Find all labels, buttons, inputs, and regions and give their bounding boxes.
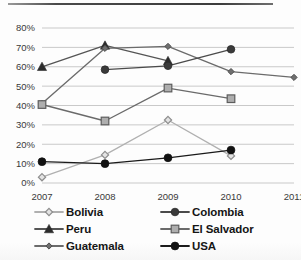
legend-item[interactable]: Bolivia — [34, 204, 124, 220]
chart-legend: Bolivia Peru Guatemala Colombia El Salva… — [0, 204, 301, 258]
data-point-colombia — [101, 66, 109, 74]
y-tick-label: 30% — [16, 119, 36, 130]
series-line-el-salvador — [42, 88, 231, 121]
legend-item[interactable]: Guatemala — [34, 238, 124, 254]
y-tick-label: 80% — [16, 22, 36, 33]
legend-label-guatemala: Guatemala — [64, 239, 124, 253]
legend-label-usa: USA — [190, 239, 216, 253]
data-point-colombia — [227, 46, 235, 54]
data-point-el-salvador — [38, 101, 46, 109]
x-tick-label: 2011 — [284, 191, 301, 202]
legend-marker-el-salvador — [160, 222, 190, 236]
data-point-usa — [227, 146, 235, 154]
data-point-usa — [38, 158, 46, 166]
legend-label-colombia: Colombia — [190, 205, 244, 219]
legend-label-bolivia: Bolivia — [64, 205, 103, 219]
legend-item[interactable]: USA — [160, 238, 254, 254]
legend-marker-colombia — [160, 205, 190, 219]
legend-swatch-marker — [171, 208, 179, 216]
legend-marker-usa — [160, 239, 190, 253]
legend-label-peru: Peru — [64, 222, 91, 236]
y-axis-tick-labels: 0%10%20%30%40%50%60%70%80% — [16, 22, 36, 188]
legend-column-left: Bolivia Peru Guatemala — [34, 204, 124, 255]
legend-swatch-marker — [46, 243, 52, 249]
data-point-usa — [101, 160, 109, 168]
legend-item[interactable]: Peru — [34, 221, 124, 237]
y-tick-label: 70% — [16, 42, 36, 53]
legend-swatch-marker — [45, 208, 52, 215]
series-line-guatemala — [42, 46, 294, 103]
data-point-usa — [164, 154, 172, 162]
legend-item[interactable]: Colombia — [160, 204, 254, 220]
y-tick-label: 40% — [16, 100, 36, 111]
data-point-el-salvador — [101, 117, 109, 125]
x-tick-label: 2008 — [94, 191, 115, 202]
x-tick-label: 2010 — [220, 191, 241, 202]
legend-swatch-marker — [171, 225, 179, 233]
line-chart-plot: 0%10%20%30%40%50%60%70%80% 2007200820092… — [0, 0, 301, 210]
y-tick-label: 60% — [16, 61, 36, 72]
series-markers-group — [37, 41, 297, 181]
y-tick-label: 20% — [16, 139, 36, 150]
y-tick-label: 0% — [21, 177, 35, 188]
legend-swatch-marker — [171, 242, 179, 250]
series-line-bolivia — [42, 120, 231, 177]
data-point-bolivia — [164, 116, 171, 123]
legend-label-el-salvador: El Salvador — [190, 222, 254, 236]
chart-figure: 0%10%20%30%40%50%60%70%80% 2007200820092… — [0, 0, 301, 260]
data-point-el-salvador — [164, 84, 172, 92]
y-tick-label: 50% — [16, 81, 36, 92]
data-point-guatemala — [291, 74, 297, 80]
legend-marker-bolivia — [34, 205, 64, 219]
data-point-colombia — [164, 62, 172, 70]
y-tick-label: 10% — [16, 158, 36, 169]
legend-marker-guatemala — [34, 239, 64, 253]
data-point-guatemala — [165, 43, 171, 49]
legend-marker-peru — [34, 222, 64, 236]
legend-column-right: Colombia El Salvador USA — [160, 204, 254, 255]
data-point-guatemala — [228, 68, 234, 74]
series-line-usa — [42, 150, 231, 164]
data-point-el-salvador — [227, 95, 235, 103]
x-tick-label: 2009 — [157, 191, 178, 202]
data-point-bolivia — [38, 174, 45, 181]
x-axis-tick-labels: 20072008200920102011 — [31, 191, 301, 202]
x-tick-label: 2007 — [31, 191, 52, 202]
legend-item[interactable]: El Salvador — [160, 221, 254, 237]
data-point-bolivia — [101, 151, 108, 158]
